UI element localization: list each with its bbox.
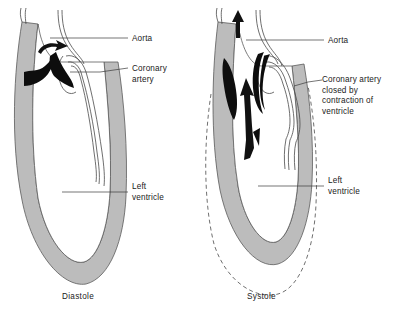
- label-coronary-artery-line-1: Coronary: [132, 64, 168, 73]
- label-coronary-closed-line-2: closed by: [322, 86, 359, 95]
- label-left-ventricle-line-2: ventricle: [132, 193, 164, 202]
- label-coronary-closed-line-1: Coronary artery: [322, 75, 382, 84]
- caption-systole: Systole: [247, 292, 276, 301]
- caption-diastole: Diastole: [62, 292, 94, 301]
- label-left-ventricle-systole-line-2: ventricle: [328, 187, 360, 196]
- label-aorta-diastole: Aorta: [132, 34, 153, 43]
- label-coronary-artery-line-2: artery: [132, 75, 155, 84]
- label-aorta-systole: Aorta: [328, 36, 349, 45]
- label-left-ventricle-systole-line-1: Left: [328, 176, 343, 185]
- label-left-ventricle-line-1: Left: [132, 182, 147, 191]
- label-coronary-closed-line-3: contraction of: [322, 96, 374, 105]
- label-coronary-closed-line-4: ventricle: [322, 107, 354, 116]
- coronary-perfusion-diagram: Aorta Coronary artery Left ventricle Dia…: [0, 0, 400, 316]
